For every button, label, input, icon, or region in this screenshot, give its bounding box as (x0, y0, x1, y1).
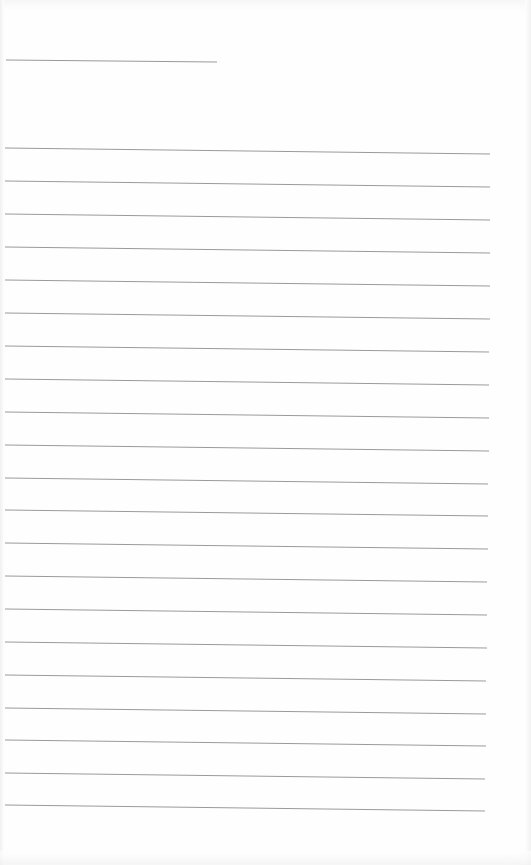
ruled-line (5, 543, 488, 549)
header-line (6, 60, 217, 62)
ruled-line (5, 379, 489, 385)
ruled-line (5, 773, 485, 779)
ruled-line (5, 576, 487, 582)
ruled-line (5, 675, 486, 681)
ruled-line (5, 609, 487, 615)
ruled-line (5, 510, 488, 516)
ruled-line (5, 346, 489, 352)
ruled-line (5, 280, 490, 286)
notebook-page (0, 0, 531, 865)
ruled-line (5, 642, 487, 648)
ruled-line (5, 214, 490, 220)
ruled-line (5, 313, 490, 319)
ruled-line (5, 181, 490, 187)
ruled-line (5, 740, 486, 746)
ruled-lines-group (5, 148, 490, 811)
ruled-line (5, 805, 485, 811)
ruled-line (5, 247, 490, 253)
ruled-line (5, 478, 488, 484)
ruled-line (5, 445, 489, 451)
ruled-line (5, 148, 490, 154)
ruled-line (5, 412, 489, 418)
ruled-line (5, 708, 486, 714)
ruled-lines (0, 0, 531, 865)
